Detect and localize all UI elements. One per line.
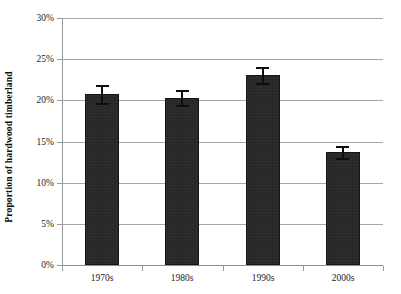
x-axis-tick-label: 1990s [223, 272, 303, 284]
bar [165, 98, 199, 265]
error-bar-stem [181, 90, 183, 105]
x-axis-tick-label: 1970s [62, 272, 142, 284]
x-axis-tick [223, 266, 224, 271]
x-axis-tick [383, 266, 384, 271]
x-axis-tick [142, 266, 143, 271]
bar [246, 75, 280, 265]
x-axis-tick [303, 266, 304, 271]
y-axis-tick [57, 59, 62, 60]
error-bar-cap-upper [336, 146, 349, 148]
x-axis-tick [62, 266, 63, 271]
error-bar-cap-upper [256, 67, 269, 69]
x-axis-tick-label: 2000s [303, 272, 383, 284]
y-axis-title: Proportion of hardwood timberland [0, 0, 18, 294]
error-bar-cap-lower [336, 158, 349, 160]
y-axis-tick [57, 100, 62, 101]
y-axis-tick [57, 142, 62, 143]
y-axis-tick [57, 224, 62, 225]
error-bar-cap-upper [96, 85, 109, 87]
y-axis-tick-label: 10% [0, 178, 54, 188]
gridline [62, 59, 383, 60]
bar [326, 152, 360, 265]
plot-area [62, 18, 383, 265]
y-axis-tick [57, 18, 62, 19]
y-axis-tick-label: 15% [0, 137, 54, 147]
y-axis-tick-label: 20% [0, 95, 54, 105]
error-bar-stem [101, 85, 103, 103]
y-axis-tick-label: 0% [0, 260, 54, 270]
y-axis-tick-label: 30% [0, 13, 54, 23]
y-axis-tick-label: 25% [0, 54, 54, 64]
bar [85, 94, 119, 265]
error-bar-stem [262, 67, 264, 83]
error-bar-cap-upper [176, 90, 189, 92]
error-bar-cap-lower [176, 105, 189, 107]
x-axis-tick-label: 1980s [142, 272, 222, 284]
y-axis-tick [57, 183, 62, 184]
bar-chart: Proportion of hardwood timberland 30%25%… [0, 0, 401, 294]
error-bar-cap-lower [256, 83, 269, 85]
gridline [62, 18, 383, 19]
y-axis-tick-label: 5% [0, 219, 54, 229]
y-axis-line [62, 18, 63, 266]
error-bar-cap-lower [96, 103, 109, 105]
